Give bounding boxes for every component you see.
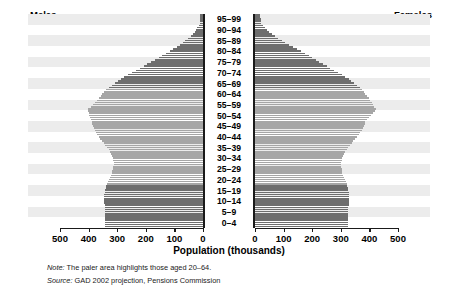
female-bar xyxy=(255,209,348,211)
x-tick-label-right-500: 500 xyxy=(390,233,406,244)
female-bar xyxy=(255,121,365,123)
female-bar xyxy=(255,97,369,99)
female-bar xyxy=(255,147,348,149)
population-pyramid-chart: Males Females 0–45–910–1415–1920–2425–29… xyxy=(0,0,458,292)
female-bar xyxy=(255,65,327,67)
age-group-label: 50–54 xyxy=(205,112,253,121)
female-bar xyxy=(255,91,364,93)
female-bar xyxy=(255,119,367,121)
female-bar xyxy=(255,134,359,136)
male-bar xyxy=(104,194,203,196)
female-bar xyxy=(255,85,357,87)
male-bar xyxy=(112,155,203,157)
male-bar xyxy=(91,119,203,121)
male-bar xyxy=(104,142,203,144)
female-bar xyxy=(255,207,348,209)
female-bar xyxy=(255,31,269,33)
x-tick-label-left-100: 100 xyxy=(166,233,182,244)
age-group-label: 75–79 xyxy=(205,58,253,67)
female-bar xyxy=(255,222,348,224)
male-bar xyxy=(147,63,203,65)
female-bar xyxy=(255,215,348,217)
x-axis-title: Population (thousands) xyxy=(0,245,458,256)
female-bar xyxy=(255,108,376,110)
male-bar xyxy=(92,121,203,123)
female-bar xyxy=(255,106,374,108)
age-group-label: 20–24 xyxy=(205,176,253,185)
note-footnote: Note: The paler area highlights those ag… xyxy=(47,263,211,272)
female-bar xyxy=(255,76,345,78)
female-bar xyxy=(255,172,342,174)
female-bar xyxy=(255,157,342,159)
male-bar xyxy=(95,130,203,132)
male-bar xyxy=(105,211,203,213)
male-bar xyxy=(124,76,203,78)
male-bar xyxy=(113,166,203,168)
female-bar xyxy=(255,35,275,37)
axis-tick xyxy=(369,228,370,232)
male-bar xyxy=(102,93,203,95)
female-bar xyxy=(255,57,312,59)
female-bar xyxy=(255,23,261,25)
female-bar xyxy=(255,224,348,226)
male-bar xyxy=(185,40,203,42)
female-bar xyxy=(255,48,297,50)
female-bar xyxy=(255,102,372,104)
male-bar xyxy=(121,78,203,80)
male-bar xyxy=(97,100,203,102)
male-bar xyxy=(100,138,203,140)
age-group-axis: 0–45–910–1415–1920–2425–2930–3435–3940–4… xyxy=(203,14,255,228)
female-bar xyxy=(255,95,367,97)
female-bar xyxy=(255,44,289,46)
female-bar xyxy=(255,136,357,138)
note-text: The paler area highlights those aged 20–… xyxy=(65,263,212,272)
female-bar xyxy=(255,100,370,102)
source-text: GAD 2002 projection, Pensions Commission xyxy=(72,276,220,285)
note-prefix: Note: xyxy=(47,263,65,272)
male-bar xyxy=(113,160,203,162)
axis-tick xyxy=(312,228,313,232)
female-bar xyxy=(255,142,352,144)
male-bar xyxy=(114,164,203,166)
male-bar xyxy=(118,80,203,82)
female-bar xyxy=(255,177,344,179)
x-tick-label-right-400: 400 xyxy=(361,233,377,244)
x-tick-label-right-300: 300 xyxy=(333,233,349,244)
axis-tick xyxy=(174,228,175,232)
female-bar xyxy=(255,68,330,70)
age-group-label: 90–94 xyxy=(205,26,253,35)
female-bar xyxy=(255,127,363,129)
female-bar xyxy=(255,80,351,82)
female-bar xyxy=(255,140,353,142)
female-bar xyxy=(255,166,341,168)
female-bar xyxy=(255,170,342,172)
axis-tick xyxy=(284,228,285,232)
male-bar xyxy=(93,104,203,106)
age-group-label: 80–84 xyxy=(205,47,253,56)
male-bar xyxy=(109,87,203,89)
female-bar xyxy=(255,16,260,18)
female-bar xyxy=(255,14,260,16)
male-bar xyxy=(97,134,203,136)
male-bar xyxy=(93,125,203,127)
male-bar xyxy=(113,168,203,170)
female-bar xyxy=(255,153,344,155)
male-bar xyxy=(183,42,203,44)
female-bar xyxy=(255,38,278,40)
male-bar xyxy=(105,215,203,217)
male-bar xyxy=(106,185,203,187)
axis-tick xyxy=(255,228,256,232)
male-bar xyxy=(144,65,203,67)
male-bar xyxy=(113,157,203,159)
male-bar xyxy=(106,187,203,189)
male-bar xyxy=(111,153,203,155)
female-bar xyxy=(255,46,293,48)
male-bar xyxy=(102,140,203,142)
male-bar xyxy=(105,224,203,226)
axis-tick xyxy=(146,228,147,232)
male-bar xyxy=(132,72,203,74)
male-bar xyxy=(180,44,203,46)
axis-tick xyxy=(341,228,342,232)
x-tick-label-right-0: 0 xyxy=(252,233,257,244)
male-bar xyxy=(95,102,203,104)
